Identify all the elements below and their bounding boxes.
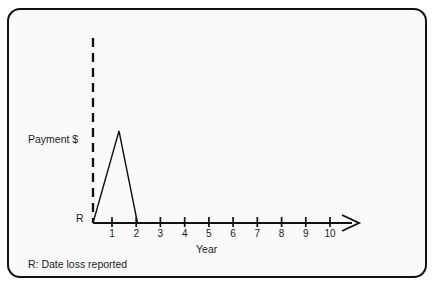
x-axis-label: Year bbox=[196, 243, 217, 255]
tick-label: 4 bbox=[177, 228, 193, 239]
tick-label: 8 bbox=[274, 228, 290, 239]
tick-label: 10 bbox=[322, 228, 338, 239]
tick-label: 3 bbox=[152, 228, 168, 239]
y-axis-label: Payment $ bbox=[28, 133, 78, 145]
tick-label: 9 bbox=[298, 228, 314, 239]
report-date-marker-label: R bbox=[76, 212, 84, 224]
tick-label: 5 bbox=[201, 228, 217, 239]
tick-label: 6 bbox=[225, 228, 241, 239]
figure-root: Payment $ R Year R: Date loss reported 1… bbox=[0, 0, 439, 291]
tick-label: 2 bbox=[128, 228, 144, 239]
figure-caption: R: Date loss reported bbox=[28, 258, 127, 270]
tick-label: 1 bbox=[104, 228, 120, 239]
tick-label: 7 bbox=[249, 228, 265, 239]
